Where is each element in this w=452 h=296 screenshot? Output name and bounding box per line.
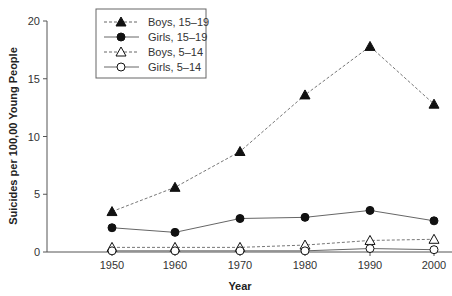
- legend: Boys, 15–19Girls, 15–19Boys, 5–14Girls, …: [96, 9, 209, 78]
- legend-label: Girls, 5–14: [148, 61, 201, 73]
- x-tick-label: 1950: [100, 259, 124, 271]
- legend-label: Boys, 15–19: [148, 16, 209, 28]
- x-tick-label: 2000: [422, 259, 446, 271]
- series-line: [112, 210, 434, 232]
- open-circle-marker: [117, 63, 125, 71]
- x-tick-label: 1980: [293, 259, 317, 271]
- y-tick-label: 20: [28, 15, 40, 27]
- filled-circle-marker: [301, 213, 309, 221]
- filled-circle-marker: [430, 217, 438, 225]
- x-tick-label: 1960: [163, 259, 187, 271]
- legend-item: Girls, 15–19: [104, 31, 207, 43]
- y-tick-label: 10: [28, 131, 40, 143]
- y-axis-title: Suicides per 100,00 Young People: [7, 47, 19, 225]
- filled-triangle-marker: [107, 207, 117, 216]
- filled-circle-marker: [171, 228, 179, 236]
- y-tick-label: 0: [34, 246, 40, 258]
- open-triangle-marker: [429, 234, 439, 243]
- line-chart: 05101520195019601970198019902000YearSuic…: [0, 0, 452, 296]
- open-circle-marker: [301, 247, 309, 255]
- filled-triangle-marker: [300, 90, 310, 99]
- filled-triangle-marker: [365, 41, 375, 50]
- legend-label: Girls, 15–19: [148, 31, 207, 43]
- filled-circle-marker: [236, 215, 244, 223]
- series-1: [108, 206, 438, 236]
- filled-circle-marker: [117, 33, 125, 41]
- x-axis-title: Year: [228, 280, 252, 292]
- open-circle-marker: [430, 246, 438, 254]
- series-line: [112, 239, 434, 247]
- open-circle-marker: [236, 247, 244, 255]
- y-tick-label: 15: [28, 73, 40, 85]
- legend-label: Boys, 5–14: [148, 46, 203, 58]
- series-line: [112, 249, 434, 251]
- open-circle-marker: [366, 245, 374, 253]
- open-circle-marker: [171, 247, 179, 255]
- filled-triangle-marker: [170, 182, 180, 191]
- y-tick-label: 5: [34, 188, 40, 200]
- filled-circle-marker: [108, 224, 116, 232]
- x-tick-label: 1970: [228, 259, 252, 271]
- filled-circle-marker: [366, 206, 374, 214]
- x-tick-label: 1990: [358, 259, 382, 271]
- open-circle-marker: [108, 247, 116, 255]
